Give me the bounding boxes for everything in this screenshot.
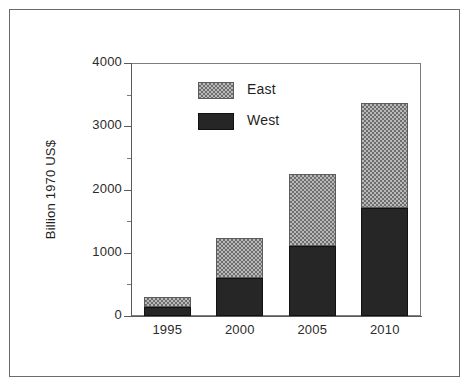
chart-canvas: Billion 1970 US$ 01000200030004000 19952… — [10, 10, 461, 378]
x-tick-label-2000: 2000 — [204, 322, 276, 337]
bar-segment-west-2000[interactable] — [216, 278, 263, 316]
legend-item-east: East — [198, 82, 318, 99]
y-tick-label: 2000 — [10, 181, 122, 196]
y-tick-label: 3000 — [10, 117, 122, 132]
y-tick-minor — [127, 221, 131, 222]
y-tick-minor — [127, 95, 131, 96]
bar-group-2010[interactable] — [361, 103, 408, 316]
y-tick-major — [124, 316, 131, 317]
legend-swatch-west-icon — [198, 113, 234, 130]
x-axis-line — [131, 316, 422, 317]
bar-segment-east-2005[interactable] — [289, 174, 336, 247]
y-axis-line — [131, 63, 132, 317]
y-tick-label: 1000 — [10, 244, 122, 259]
bar-group-2005[interactable] — [289, 174, 336, 316]
y-tick-minor — [127, 284, 131, 285]
chart-legend: East West — [198, 82, 318, 144]
legend-item-west: West — [198, 113, 318, 130]
x-tick-label-2005: 2005 — [276, 322, 348, 337]
bar-segment-west-1995[interactable] — [144, 307, 191, 316]
legend-label-west: West — [247, 112, 279, 128]
x-tick-label-2010: 2010 — [349, 322, 421, 337]
bar-group-1995[interactable] — [144, 297, 191, 316]
bar-group-2000[interactable] — [216, 238, 263, 316]
y-tick-minor — [127, 158, 131, 159]
bar-segment-west-2005[interactable] — [289, 246, 336, 316]
bar-segment-west-2010[interactable] — [361, 208, 408, 316]
y-tick-label: 0 — [10, 307, 122, 322]
bar-segment-east-2010[interactable] — [361, 103, 408, 209]
legend-label-east: East — [247, 81, 276, 97]
bar-segment-east-1995[interactable] — [144, 297, 191, 306]
figure-frame: Billion 1970 US$ 01000200030004000 19952… — [9, 9, 460, 377]
legend-swatch-east-icon — [198, 82, 234, 99]
y-tick-major — [124, 63, 131, 64]
bar-segment-east-2000[interactable] — [216, 238, 263, 278]
y-tick-label: 4000 — [10, 54, 122, 69]
y-tick-major — [124, 253, 131, 254]
y-tick-major — [124, 126, 131, 127]
x-tick-label-1995: 1995 — [131, 322, 203, 337]
y-tick-major — [124, 190, 131, 191]
